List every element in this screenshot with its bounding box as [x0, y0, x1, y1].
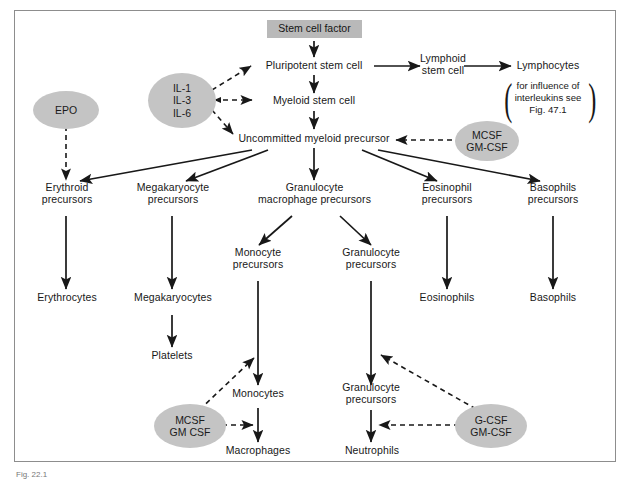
growth-factor-mcsf-gmcsf-bottom: MCSF GM CSF: [154, 404, 226, 448]
note-interleukin-reference: for influence of interleukins see Fig. 4…: [505, 80, 591, 116]
node-uncommitted-myeloid-precursor: Uncommitted myeloid precursor: [228, 133, 400, 145]
node-granulocyte-macrophage-precursors: Granulocyte macrophage precursors: [242, 182, 387, 206]
diagram-arrows-layer: [0, 0, 631, 488]
node-erythrocytes: Erythrocytes: [22, 292, 112, 304]
node-monocytes: Monocytes: [218, 388, 298, 400]
growth-factor-gcsf-gmcsf: G-CSF GM-CSF: [455, 404, 527, 448]
node-lymphoid-stem-cell: Lymphoid stem cell: [418, 53, 468, 77]
growth-factor-interleukins: IL-1 IL-3 IL-6: [148, 73, 216, 128]
node-basophils: Basophils: [513, 292, 593, 304]
node-eosinophils: Eosinophils: [407, 292, 487, 304]
node-lymphocytes: Lymphocytes: [505, 60, 591, 72]
node-macrophages: Macrophages: [213, 445, 303, 457]
figure-caption: Fig. 22.1: [16, 470, 47, 479]
node-pluripotent-stem-cell: Pluripotent stem cell: [249, 60, 379, 72]
node-neutrophils: Neutrophils: [331, 445, 413, 457]
growth-factor-epo: EPO: [33, 91, 99, 129]
node-platelets: Platelets: [137, 350, 207, 362]
node-erythroid-precursors: Erythroid precursors: [26, 182, 108, 206]
node-megakaryocytes: Megakaryocytes: [123, 292, 223, 304]
node-eosinophil-precursors: Eosinophil precursors: [407, 182, 487, 206]
node-granulocyte-precursors-upper: Granulocyte precursors: [331, 247, 411, 271]
node-myeloid-stem-cell: Myeloid stem cell: [254, 95, 374, 107]
growth-factor-mcsf-gmcsf-top: MCSF GM-CSF: [455, 121, 519, 161]
node-stem-cell-factor: Stem cell factor: [267, 20, 362, 38]
node-basophils-precursors: Basophils precursors: [513, 182, 593, 206]
node-monocyte-precursors: Monocyte precursors: [218, 247, 298, 271]
node-megakaryocyte-precursors: Megakaryocyte precursors: [123, 182, 223, 206]
node-granulocyte-precursors-lower: Granulocyte precursors: [331, 382, 411, 406]
